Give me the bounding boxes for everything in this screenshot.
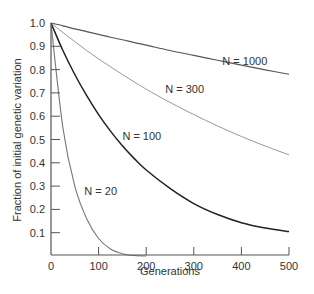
x-tick-label: 100: [89, 260, 107, 272]
x-axis-label: Generations: [140, 265, 200, 277]
y-tick-label: 0.1: [30, 227, 45, 239]
y-tick-label: 0.8: [30, 64, 45, 76]
y-tick-label: 0.9: [30, 40, 45, 52]
y-tick-label: 0.4: [30, 157, 45, 169]
curve-label: N = 300: [165, 83, 204, 95]
x-tick-label: 400: [232, 260, 250, 272]
y-tick-label: 0.5: [30, 134, 45, 146]
y-tick-label: 0.6: [30, 110, 45, 122]
curve-label: N = 100: [122, 130, 161, 142]
y-tick-label: 0.7: [30, 87, 45, 99]
x-tick-label: 0: [48, 260, 54, 272]
genetic-variation-chart: 01002003004005000.10.20.30.40.50.60.70.8…: [0, 0, 314, 294]
curve-label: N = 1000: [222, 55, 267, 67]
x-tick-label: 500: [280, 260, 298, 272]
y-tick-label: 0.3: [30, 180, 45, 192]
curve-label: N = 20: [84, 185, 117, 197]
y-tick-label: 1.0: [30, 17, 45, 29]
y-tick-label: 0.2: [30, 203, 45, 215]
curve-labels: N = 1000N = 300N = 100N = 20: [84, 55, 267, 197]
y-axis-label: Fraction of initial genetic variation: [11, 58, 23, 221]
